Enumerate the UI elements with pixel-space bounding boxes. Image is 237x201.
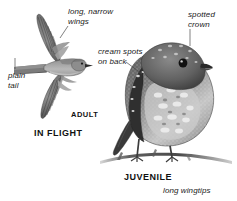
annotation-plain-tail: plain tail — [8, 71, 25, 90]
annotation-long-wingtips: long wingtips — [163, 186, 211, 196]
stage-label-juvenile: JUVENILE — [124, 172, 172, 182]
stage-label-in-flight: IN FLIGHT — [34, 128, 83, 138]
annotation-long-narrow-wings: long, narrow wings — [68, 7, 113, 26]
bird-identification-plate: long, narrow wings spotted crown cream s… — [0, 0, 237, 201]
annotation-cream-spots-on-back: cream spots on back — [98, 47, 143, 66]
stage-label-adult: ADULT — [71, 110, 98, 119]
leader-lines — [0, 0, 237, 201]
leader-line-wings — [60, 26, 68, 38]
annotation-spotted-crown: spotted crown — [188, 10, 215, 29]
